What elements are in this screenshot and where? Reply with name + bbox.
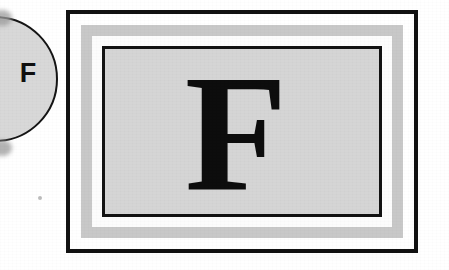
plate-inner-border: F	[102, 46, 382, 217]
plate-mat-white: F	[92, 36, 392, 227]
plate-outer-border: F	[66, 10, 418, 253]
index-tab-letter: F	[11, 58, 45, 88]
plate-letter: F	[185, 66, 288, 200]
scan-speck-left	[38, 196, 42, 200]
plate-field: F	[105, 49, 379, 214]
scan-smudge-bottom	[0, 140, 12, 156]
scanned-page: F F	[0, 0, 449, 270]
plate-mat-gray: F	[81, 25, 403, 238]
